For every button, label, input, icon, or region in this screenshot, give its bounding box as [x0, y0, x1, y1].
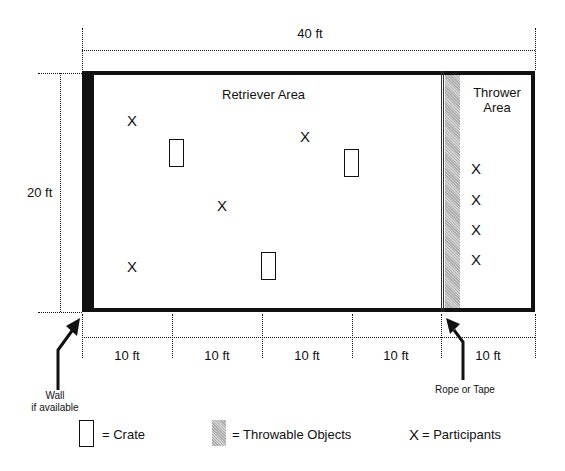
width-label: 40 ft: [270, 26, 350, 41]
participant-marker: X: [127, 113, 137, 128]
segment-label: 10 ft: [272, 348, 342, 363]
wall-annotation: Wall if available: [20, 390, 90, 414]
wall: [82, 71, 94, 312]
participant-marker: X: [300, 129, 310, 144]
segment-tick: [262, 314, 263, 358]
crate: [169, 139, 184, 167]
participant-marker: X: [471, 192, 481, 207]
participant-marker: X: [127, 259, 137, 274]
height-label: 20 ft: [27, 185, 52, 200]
retriever-area-label: Retriever Area: [222, 87, 305, 102]
segment-tick: [352, 314, 353, 358]
legend-crate-label: = Crate: [102, 427, 145, 442]
segment-label: 10 ft: [182, 348, 252, 363]
legend-crate-icon: [79, 420, 94, 447]
dim-tick-left: [82, 28, 83, 70]
throwable-objects-zone: [445, 75, 460, 308]
rope-annotation: Rope or Tape: [420, 384, 510, 396]
dim-tick-right: [535, 28, 536, 70]
width-dimension-line: [82, 50, 535, 51]
legend-throwable-label: = Throwable Objects: [232, 427, 351, 442]
legend-participant-icon: X: [409, 427, 419, 442]
height-dimension-line: [60, 73, 61, 312]
wall-annotation-line2: if available: [20, 402, 90, 414]
thrower-area-line1: Thrower: [462, 85, 532, 100]
crate: [344, 149, 359, 177]
thrower-area-line2: Area: [462, 100, 532, 115]
participant-marker: X: [217, 198, 227, 213]
segment-tick: [535, 314, 536, 358]
wall-arrow-icon: [50, 312, 90, 392]
rope-line: [441, 71, 444, 312]
rope-arrow-icon: [440, 312, 480, 382]
participant-marker: X: [471, 252, 481, 267]
legend-participant-label: = Participants: [422, 427, 501, 442]
crate: [261, 252, 276, 280]
segment-tick: [172, 314, 173, 358]
participant-marker: X: [471, 222, 481, 237]
wall-annotation-line1: Wall: [20, 390, 90, 402]
thrower-area-label: Thrower Area: [462, 85, 532, 115]
participant-marker: X: [471, 161, 481, 176]
segment-label: 10 ft: [92, 348, 162, 363]
legend-throwable-icon: [212, 420, 226, 446]
segment-label: 10 ft: [361, 348, 431, 363]
